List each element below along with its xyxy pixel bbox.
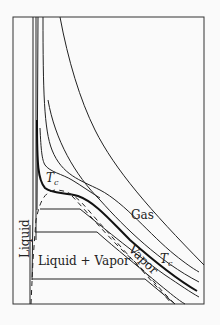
vapor-dashed-curve bbox=[72, 196, 175, 304]
isotherm-low-3 bbox=[32, 279, 175, 304]
isotherm-high-3 bbox=[60, 17, 204, 265]
label-liquid-vapor: Liquid + Vapor bbox=[38, 254, 130, 268]
label-liquid: Liquid bbox=[18, 219, 32, 258]
liquid-line-3 bbox=[37, 17, 38, 210]
isotherm-low-1 bbox=[40, 209, 199, 297]
label-gas: Gas bbox=[131, 208, 154, 222]
isotherm-high-1 bbox=[43, 17, 199, 272]
pv-diagram: Liquid Liquid + Vapor Vapor Gas Tc Tc bbox=[0, 0, 220, 325]
liquid-line-5 bbox=[32, 210, 33, 280]
label-critical-isotherm: Tc bbox=[160, 252, 173, 268]
